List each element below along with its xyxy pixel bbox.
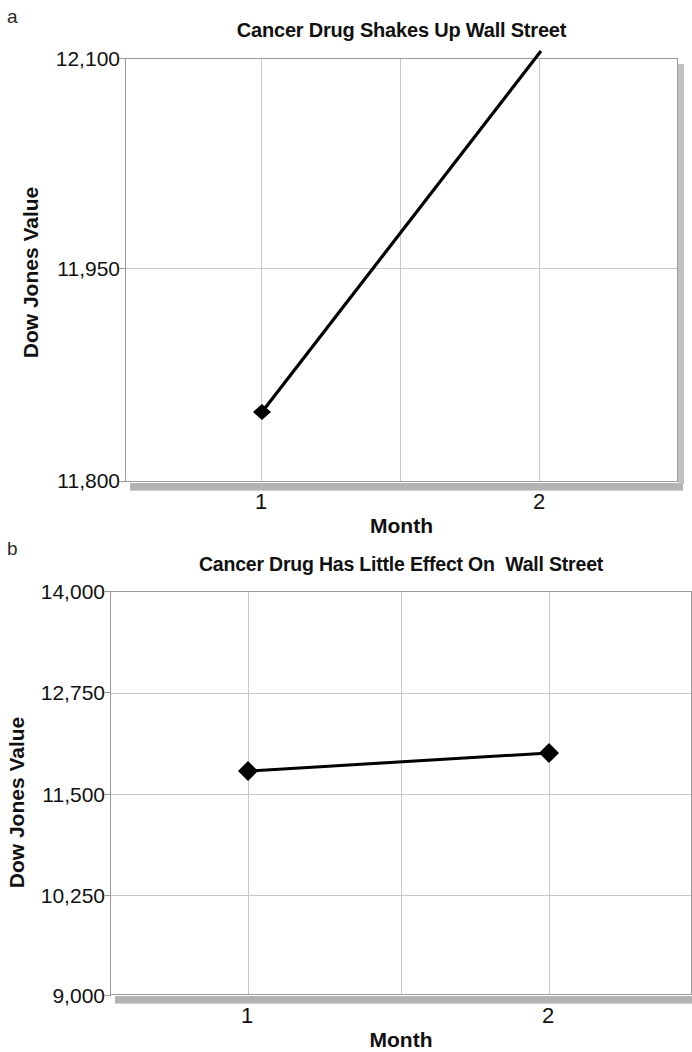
y-tick-label-a-12100: 12,100 bbox=[40, 48, 120, 69]
data-series-a bbox=[126, 59, 679, 483]
chart-panel-b: b Cancer Drug Has Little Effect On Wall … bbox=[0, 530, 692, 1052]
x-tick-label-b-2: 2 bbox=[528, 1005, 568, 1027]
y-tick-label-a-11950: 11,950 bbox=[40, 258, 120, 279]
x-tick-label-a-2: 2 bbox=[519, 491, 559, 513]
y-tick-label-b-12750: 12,750 bbox=[20, 682, 105, 703]
y-tick-label-a-11800: 11,800 bbox=[40, 470, 120, 491]
plot-area-a bbox=[125, 58, 678, 482]
chart-title-b: Cancer Drug Has Little Effect On Wall St… bbox=[110, 555, 692, 575]
axis-shadow-right-a bbox=[678, 64, 684, 484]
data-series-b bbox=[111, 592, 692, 996]
axis-shadow-b bbox=[115, 996, 692, 1004]
chart-panel-a: a Cancer Drug Shakes Up Wall Street 12,1… bbox=[0, 0, 692, 530]
y-axis-title-a: Dow Jones Value bbox=[20, 183, 41, 363]
panel-letter-b: b bbox=[7, 539, 18, 558]
plot-area-b bbox=[110, 591, 692, 995]
panel-letter-a: a bbox=[7, 7, 18, 26]
x-tick-label-a-1: 1 bbox=[241, 491, 281, 513]
y-tick-label-b-11500: 11,500 bbox=[20, 784, 105, 805]
y-axis-title-b: Dow Jones Value bbox=[6, 713, 27, 893]
x-axis-title-b: Month bbox=[110, 1029, 692, 1050]
x-tick-label-b-1: 1 bbox=[227, 1005, 267, 1027]
y-tick-label-b-10250: 10,250 bbox=[20, 885, 105, 906]
axis-shadow-a bbox=[130, 483, 683, 491]
chart-title-a: Cancer Drug Shakes Up Wall Street bbox=[125, 20, 678, 40]
y-tick-mark-b-9000 bbox=[104, 995, 111, 996]
y-tick-label-b-14000: 14,000 bbox=[20, 581, 105, 602]
y-tick-label-b-9000: 9,000 bbox=[20, 985, 105, 1006]
